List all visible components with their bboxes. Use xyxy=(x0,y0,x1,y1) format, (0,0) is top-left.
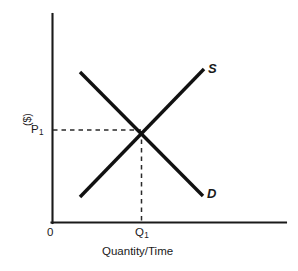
y-axis-title: ($) xyxy=(22,113,33,126)
demand-curve-label: D xyxy=(207,187,217,200)
supply-curve-label: S xyxy=(208,62,217,75)
quantity-tick-subscript: 1 xyxy=(144,231,149,240)
supply-demand-figure: S D P1 0 Q1 Quantity/Time ($) xyxy=(0,0,298,271)
price-tick-subscript: 1 xyxy=(39,128,44,137)
x-axis-title: Quantity/Time xyxy=(102,246,173,258)
quantity-tick-letter: Q xyxy=(135,226,144,238)
plot-canvas xyxy=(0,0,298,271)
origin-label: 0 xyxy=(47,227,53,239)
quantity-axis-tick-label: Q1 xyxy=(135,227,149,239)
